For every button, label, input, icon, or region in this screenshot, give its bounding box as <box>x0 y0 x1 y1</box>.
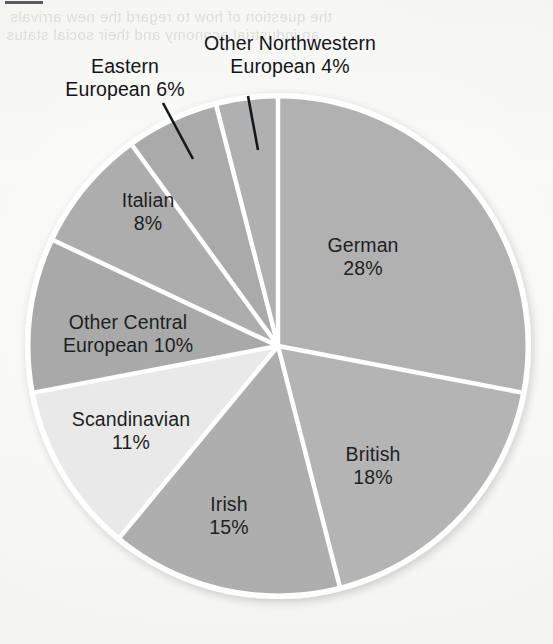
pie-slice-label-value: 28% <box>327 257 398 280</box>
pie-slice-label: Italian8% <box>122 189 175 235</box>
pie-slice-label-name: British <box>346 443 401 466</box>
pie-slice-label-value: European 6% <box>65 78 184 101</box>
scanned-page: the question of how to regard the new ar… <box>0 0 553 644</box>
pie-slice-label-name: Other Central <box>63 311 193 334</box>
pie-slice-label: EasternEuropean 6% <box>65 55 184 101</box>
pie-slice-label-name: Irish <box>209 493 248 516</box>
pie-slice-label-value: 15% <box>209 516 248 539</box>
pie-slice-label-name: German <box>327 234 398 257</box>
pie-slice-label-name: Italian <box>122 189 175 212</box>
pie-slice-label: Scandinavian11% <box>72 408 190 454</box>
pie-slice-label-name: Scandinavian <box>72 408 190 431</box>
pie-slice-label: British18% <box>346 443 401 489</box>
pie-slice-label-name: Eastern <box>65 55 184 78</box>
pie-slice-label: Other NorthwesternEuropean 4% <box>204 32 376 78</box>
pie-slice-label-value: European 10% <box>63 334 193 357</box>
pie-slice-label-name: Other Northwestern <box>204 32 376 55</box>
pie-chart: German28%British18%Irish15%Scandinavian1… <box>0 0 553 644</box>
pie-slice-label-value: 8% <box>122 212 175 235</box>
pie-slice-label: German28% <box>327 234 398 280</box>
pie-slice[interactable] <box>278 96 528 393</box>
pie-slice-label-value: 11% <box>72 431 190 454</box>
pie-slice-label: Irish15% <box>209 493 248 539</box>
pie-slice-label-value: European 4% <box>204 55 376 78</box>
pie-slice-label: Other CentralEuropean 10% <box>63 311 193 357</box>
pie-slice-label-value: 18% <box>346 466 401 489</box>
